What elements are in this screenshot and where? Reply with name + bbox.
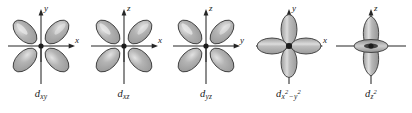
d-orbital-figure: y x dxy xyxy=(0,0,412,113)
orbital-cell-dx2y2: y x dx2−y2 xyxy=(248,0,330,113)
axis-label-vertical-dxz: z xyxy=(126,3,131,13)
orbital-label-sub-dyz: yz xyxy=(205,92,212,101)
axis-label-horizontal-dyz: y xyxy=(239,35,244,45)
orbital-cell-dz2: z dz2 xyxy=(330,0,412,113)
axis-label-vertical-dz2: z xyxy=(373,3,378,13)
orbital-label-dz2: dz2 xyxy=(330,88,412,101)
orbital-diagram-dxz: z x xyxy=(83,0,165,92)
orbital-diagram-dyz: z y xyxy=(165,0,247,92)
orbital-label-dxz: dxz xyxy=(83,88,165,101)
orbital-cell-dxz: z x dxz xyxy=(83,0,165,113)
axis-label-horizontal-dx2y2: x xyxy=(322,35,327,45)
axis-label-vertical-dxy: y xyxy=(43,3,48,13)
orbital-label-sub-dxz: xz xyxy=(123,92,130,101)
orbital-label-sup2-dx2y2: 2 xyxy=(297,88,300,95)
orbital-diagram-dx2y2: y x xyxy=(248,0,330,92)
lobes-dz2 xyxy=(354,16,388,76)
orbital-label-dxy: dxy xyxy=(0,88,82,101)
orbital-label-sup-dz2: 2 xyxy=(374,88,377,95)
orbital-label-dyz: dyz xyxy=(165,88,247,101)
orbital-cell-dyz: z y dyz xyxy=(165,0,247,113)
orbital-diagram-dz2: z xyxy=(330,0,412,92)
orbital-label-sub-dxy: xy xyxy=(40,92,47,101)
orbital-label-sup-dx2y2: 2 xyxy=(285,88,288,95)
orbital-label-dx2y2: dx2−y2 xyxy=(248,88,330,101)
lobes-dx2y2 xyxy=(257,15,321,78)
orbital-cell-dxy: y x dxy xyxy=(0,0,82,113)
orbital-diagram-dxy: y x xyxy=(0,0,82,92)
axis-label-vertical-dyz: z xyxy=(208,3,213,13)
axis-label-vertical-dx2y2: y xyxy=(291,3,296,13)
axis-label-horizontal-dxz: x xyxy=(157,35,162,45)
axis-label-horizontal-dxy: x xyxy=(74,35,79,45)
